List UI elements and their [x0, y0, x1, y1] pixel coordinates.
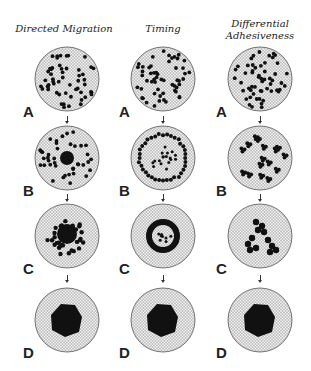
arrow-down-icon: [67, 194, 68, 200]
stage-label-directed-migration-d: D: [23, 344, 34, 361]
stage-label-differential-adhesiveness-d: D: [216, 344, 227, 361]
stage-label-differential-adhesiveness-b: B: [216, 182, 227, 199]
circle-timing-c: [131, 204, 195, 268]
stage-label-timing-a: A: [119, 103, 130, 120]
circle-differential-adhesiveness-a: [228, 47, 292, 111]
stage-label-directed-migration-c: C: [23, 260, 34, 277]
arrow-down-icon: [260, 275, 261, 281]
circle-differential-adhesiveness-b: [228, 126, 292, 190]
arrow-down-icon: [163, 275, 164, 281]
stage-label-differential-adhesiveness-a: A: [216, 103, 227, 120]
stage-label-directed-migration-a: A: [23, 103, 34, 120]
circle-differential-adhesiveness-d: [228, 288, 292, 352]
arrow-down-icon: [67, 116, 68, 122]
diagram-canvas: [0, 0, 311, 371]
arrow-down-icon: [163, 194, 164, 200]
circle-directed-migration-a: [35, 47, 99, 111]
stage-label-differential-adhesiveness-c: C: [216, 260, 227, 277]
circle-timing-a: [131, 47, 195, 111]
stage-label-directed-migration-b: B: [23, 182, 34, 199]
arrow-down-icon: [163, 116, 164, 122]
stage-label-timing-d: D: [119, 344, 130, 361]
circle-timing-b: [131, 126, 195, 190]
stage-label-timing-b: B: [119, 182, 130, 199]
circle-differential-adhesiveness-c: [228, 204, 292, 268]
circle-timing-d: [131, 288, 195, 352]
circle-directed-migration-c: [35, 204, 99, 268]
stage-label-timing-c: C: [119, 260, 130, 277]
arrow-down-icon: [67, 275, 68, 281]
arrow-down-icon: [260, 116, 261, 122]
circle-directed-migration-b: [35, 126, 99, 190]
arrow-down-icon: [260, 194, 261, 200]
circle-directed-migration-d: [35, 288, 99, 352]
